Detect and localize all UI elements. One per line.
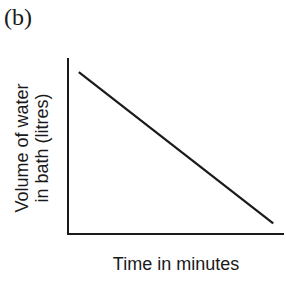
plot-area	[0, 0, 286, 295]
x-axis-label: Time in minutes	[68, 254, 284, 275]
volume-line	[79, 72, 273, 223]
